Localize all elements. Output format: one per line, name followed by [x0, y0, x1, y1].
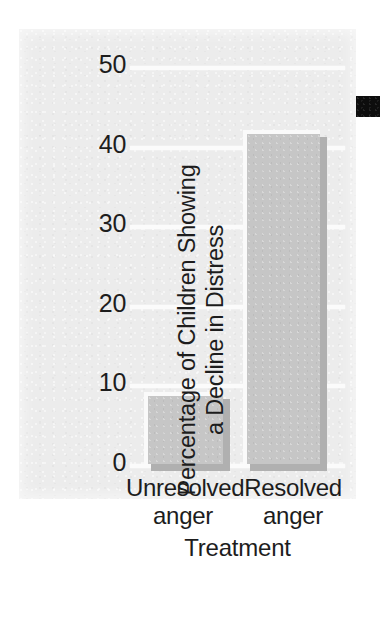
scan-artifact-block: [356, 96, 380, 117]
bar-resolved-anger[interactable]: [243, 130, 320, 464]
bar-shadow-right: [320, 137, 327, 471]
x-axis-title: Treatment: [130, 534, 345, 562]
y-tick-label-10: 10: [82, 370, 126, 395]
y-tick-label-30: 30: [82, 211, 126, 236]
bar-body: [243, 130, 320, 464]
bar-shadow-bottom: [250, 464, 327, 471]
y-axis-tick-labels: 50 40 30 20 10 0: [78, 0, 126, 617]
y-tick-label-0: 0: [82, 450, 126, 475]
category-label-unresolved-anger: Unresolved anger: [126, 474, 240, 530]
y-tick-label-20: 20: [82, 291, 126, 316]
category-label-line2: anger: [126, 502, 240, 530]
plot-area: Percentage of Children Showing a Decline…: [130, 60, 345, 470]
category-label-line1: Resolved: [244, 474, 342, 501]
category-label-resolved-anger: Resolved anger: [241, 474, 345, 530]
y-tick-label-50: 50: [82, 52, 126, 77]
figure-root: 50 40 30 20 10 0 Percentage of Children …: [0, 0, 380, 617]
y-tick-label-40: 40: [82, 132, 126, 157]
gridline-50: [130, 66, 345, 70]
category-label-line2: anger: [241, 502, 345, 530]
category-label-line1: Unresolved: [126, 474, 244, 501]
